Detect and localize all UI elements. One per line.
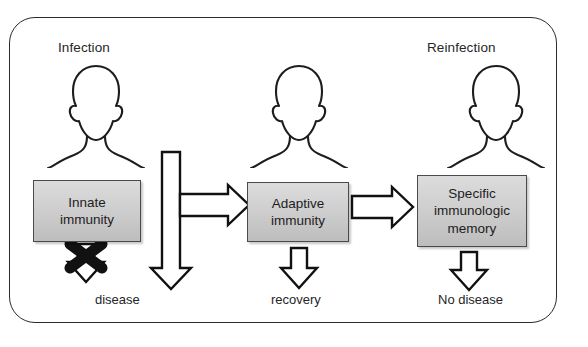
innate-to-adaptive-arrow xyxy=(180,185,249,225)
outcome-label-recovery: recovery xyxy=(271,292,321,307)
adaptive-down-arrow xyxy=(281,248,317,288)
big-down-arrow xyxy=(151,152,191,289)
box-specific-immunologic-memory[interactable]: Specificimmunologicmemory xyxy=(417,175,527,247)
box-innate-label: Innateimmunity xyxy=(60,194,114,229)
memory-down-arrow xyxy=(451,252,487,290)
outcome-label-no-disease: No disease xyxy=(438,292,503,307)
box-innate-immunity[interactable]: Innateimmunity xyxy=(33,180,141,242)
adaptive-to-memory-arrow xyxy=(352,187,413,227)
outcome-label-disease: disease xyxy=(95,292,140,307)
box-adaptive-immunity[interactable]: Adaptiveimmunity xyxy=(247,182,349,242)
box-memory-label: Specificimmunologicmemory xyxy=(434,185,510,237)
box-adaptive-label: Adaptiveimmunity xyxy=(271,195,325,230)
figure-canvas: Infection Reinfection xyxy=(0,0,588,347)
